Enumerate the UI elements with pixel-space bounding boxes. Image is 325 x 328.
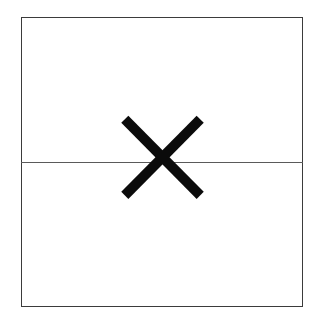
document-canvas: [0, 0, 325, 328]
horizontal-rule-line: [21, 162, 303, 163]
